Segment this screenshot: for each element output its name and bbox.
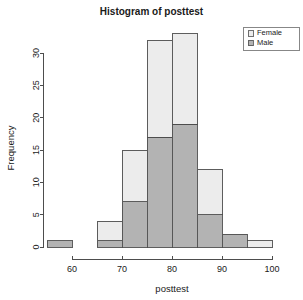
bar-segment-female xyxy=(147,40,172,137)
histogram-bin xyxy=(97,221,122,247)
x-axis-tick-label: 90 xyxy=(217,264,227,274)
legend-label: Male xyxy=(257,38,273,47)
y-axis-tick-label: 10 xyxy=(31,177,41,187)
bar-segment-male xyxy=(147,137,172,247)
bar-segment-female xyxy=(247,241,272,247)
y-axis-tick-label: 20 xyxy=(31,113,41,123)
histogram-bin xyxy=(172,34,197,247)
histogram-bin xyxy=(47,241,72,247)
bar-segment-female xyxy=(197,169,222,214)
bar-segment-male xyxy=(172,124,197,247)
y-axis-tick-label: 0 xyxy=(31,244,41,249)
chart-legend: FemaleMale xyxy=(243,27,299,50)
x-axis-tick-label: 80 xyxy=(167,264,177,274)
legend-label: Female xyxy=(257,28,282,37)
x-axis-tick-label: 60 xyxy=(67,264,77,274)
legend-swatch-icon xyxy=(248,31,253,36)
x-axis-title: posttest xyxy=(155,283,189,294)
y-axis-tick-label: 5 xyxy=(31,212,41,217)
y-axis-tick-label: 30 xyxy=(31,48,41,58)
histogram-plot: Histogram of posttest 051015202530 60708… xyxy=(0,0,303,300)
bar-segment-female xyxy=(172,34,197,125)
histogram-bin xyxy=(197,169,222,247)
histogram-bin xyxy=(147,40,172,247)
bar-segment-male xyxy=(97,241,122,247)
x-axis-tick-label: 70 xyxy=(117,264,127,274)
chart-title: Histogram of posttest xyxy=(100,6,204,17)
y-axis-title: Frequency xyxy=(5,125,16,170)
x-axis-tick-label: 100 xyxy=(264,264,279,274)
y-axis-tick-label: 25 xyxy=(31,80,41,90)
legend-swatch-icon xyxy=(248,40,253,45)
bar-segment-male xyxy=(47,241,72,247)
y-axis-tick-label: 15 xyxy=(31,145,41,155)
bar-segment-female xyxy=(122,150,147,202)
chart-canvas: Histogram of posttest 051015202530 60708… xyxy=(0,0,303,300)
histogram-bin xyxy=(222,234,247,247)
bar-segment-male xyxy=(222,234,247,247)
bar-segment-female xyxy=(97,221,122,240)
histogram-bin xyxy=(247,241,272,247)
histogram-bin xyxy=(122,150,147,247)
bar-segment-male xyxy=(197,215,222,247)
bar-segment-male xyxy=(122,202,147,247)
